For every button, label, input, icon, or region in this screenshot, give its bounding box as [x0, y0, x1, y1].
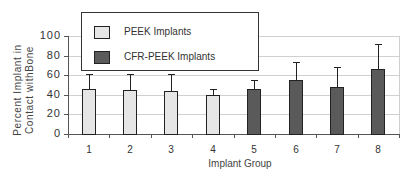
x-tick-mark — [68, 134, 69, 138]
error-bar-cap — [293, 62, 300, 63]
error-bar — [296, 62, 297, 80]
gridline — [68, 114, 399, 115]
legend-swatch-peek — [94, 26, 110, 39]
error-bar-cap — [375, 44, 382, 45]
x-tick-mark — [234, 134, 235, 138]
bar-group-5 — [247, 89, 261, 135]
x-tick-label: 7 — [327, 144, 347, 155]
y-tick-label: 20 — [33, 107, 61, 119]
error-bar-cap — [210, 89, 217, 90]
bar-group-7 — [330, 87, 344, 135]
x-tick-mark — [109, 134, 110, 138]
y-tick-mark — [64, 56, 68, 57]
y-axis — [68, 36, 69, 135]
y-tick-label: 60 — [33, 68, 61, 80]
error-bar — [89, 74, 90, 89]
error-bar — [378, 44, 379, 69]
gridline — [68, 95, 399, 96]
x-axis — [64, 134, 400, 135]
y-tick-label: 0 — [33, 127, 61, 139]
y-tick-label: 40 — [33, 88, 61, 100]
x-tick-mark — [358, 134, 359, 138]
x-tick-mark — [399, 134, 400, 138]
error-bar-cap — [251, 80, 258, 81]
x-tick-label: 3 — [161, 144, 181, 155]
error-bar — [254, 80, 255, 89]
x-tick-label: 1 — [79, 144, 99, 155]
x-tick-label: 6 — [286, 144, 306, 155]
error-bar — [130, 74, 131, 90]
error-bar-cap — [168, 74, 175, 75]
legend-label-cfr-peek: CFR-PEEK Implants — [124, 51, 215, 62]
x-tick-label: 4 — [203, 144, 223, 155]
legend-label-peek: PEEK Implants — [124, 26, 191, 37]
bar-group-1 — [82, 89, 96, 135]
x-tick-mark — [192, 134, 193, 138]
gridline — [68, 75, 399, 76]
bar-group-6 — [289, 80, 303, 135]
legend: PEEK Implants CFR-PEEK Implants — [81, 12, 259, 71]
x-tick-mark — [275, 134, 276, 138]
error-bar — [337, 67, 338, 87]
y-tick-mark — [64, 95, 68, 96]
bar-group-4 — [206, 95, 220, 135]
x-tick-mark — [151, 134, 152, 138]
bar-group-3 — [164, 91, 178, 135]
y-axis-label-line-1: Percent Implant in — [12, 44, 24, 135]
error-bar-cap — [127, 74, 134, 75]
bar-group-2 — [123, 90, 137, 135]
y-tick-mark — [64, 114, 68, 115]
x-tick-label: 8 — [368, 144, 388, 155]
y-tick-label: 100 — [33, 29, 61, 41]
x-tick-label: 5 — [244, 144, 264, 155]
y-tick-mark — [64, 36, 68, 37]
y-tick-label: 80 — [33, 49, 61, 61]
error-bar-cap — [334, 67, 341, 68]
x-axis-label: Implant Group — [180, 158, 300, 169]
error-bar — [171, 74, 172, 91]
legend-swatch-cfr-peek — [94, 51, 110, 64]
x-tick-mark — [316, 134, 317, 138]
bar-group-8 — [371, 69, 385, 135]
x-tick-label: 2 — [120, 144, 140, 155]
error-bar-cap — [86, 74, 93, 75]
bar-chart: Percent Implant in Contact withBone Impl… — [0, 0, 419, 180]
y-tick-mark — [64, 75, 68, 76]
